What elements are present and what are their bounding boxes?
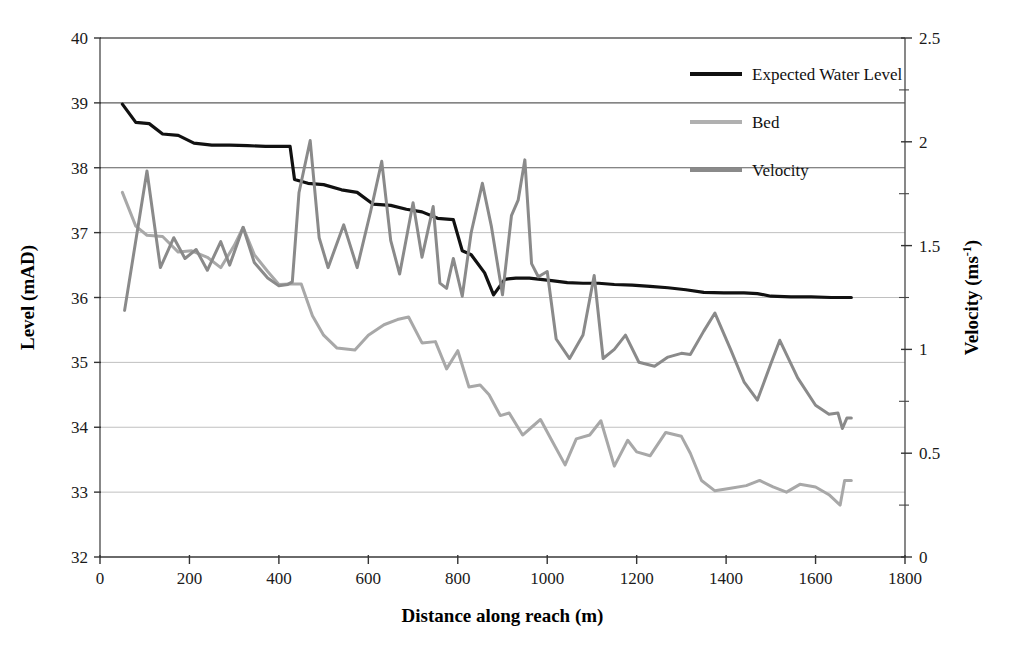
x-axis-title: Distance along reach (m) (402, 605, 604, 627)
xtick-label-200: 200 (177, 569, 203, 588)
y2tick-label-2.5: 2.5 (919, 29, 940, 48)
xtick-label-800: 800 (445, 569, 471, 588)
ytick-label-36: 36 (71, 289, 88, 308)
y2tick-label-1.5: 1.5 (919, 237, 940, 256)
xtick-label-1000: 1000 (530, 569, 564, 588)
xtick-label-0: 0 (96, 569, 105, 588)
chart-canvas: 32333435363738394000.511.522.50200400600… (0, 0, 1010, 645)
y2tick-label-2: 2 (919, 133, 928, 152)
ytick-label-33: 33 (71, 483, 88, 502)
legend-label-velocity: Velocity (752, 161, 809, 180)
legend-label-expected-water-level: Expected Water Level (752, 65, 903, 84)
ytick-label-37: 37 (71, 224, 89, 243)
y2tick-label-0.5: 0.5 (919, 444, 940, 463)
xtick-label-1200: 1200 (620, 569, 654, 588)
y2tick-label-0: 0 (919, 548, 928, 567)
y2-axis-title: Velocity (ms-1) (960, 240, 983, 355)
y2tick-label-1: 1 (919, 340, 928, 359)
chart-figure: 32333435363738394000.511.522.50200400600… (0, 0, 1010, 645)
xtick-label-1400: 1400 (709, 569, 743, 588)
ytick-label-32: 32 (71, 548, 88, 567)
xtick-label-600: 600 (356, 569, 382, 588)
legend-label-bed: Bed (752, 113, 780, 132)
ytick-label-34: 34 (71, 418, 89, 437)
ytick-label-35: 35 (71, 353, 88, 372)
plot-background (0, 0, 1010, 645)
y-axis-title: Level (mAD) (17, 245, 39, 350)
xtick-label-1600: 1600 (799, 569, 833, 588)
ytick-label-38: 38 (71, 159, 88, 178)
ytick-label-40: 40 (71, 29, 88, 48)
xtick-label-400: 400 (266, 569, 292, 588)
ytick-label-39: 39 (71, 94, 88, 113)
xtick-label-1800: 1800 (888, 569, 922, 588)
